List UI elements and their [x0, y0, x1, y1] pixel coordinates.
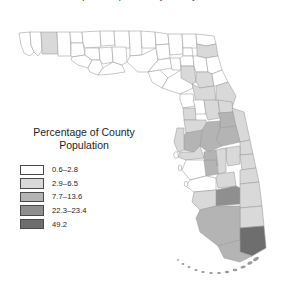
map-legend: Percentage of County Population 0.6–2.8 … — [20, 126, 160, 231]
county-putnam — [196, 72, 214, 88]
county-broward — [240, 206, 264, 228]
county-washington — [71, 43, 85, 57]
county-glades — [216, 172, 236, 188]
county-gadsden — [100, 31, 115, 46]
legend-item-2: 7.7–13.6 — [20, 190, 160, 204]
county-columbia — [168, 34, 183, 55]
legend-item-1: 2.9–6.5 — [20, 177, 160, 191]
county-liberty — [99, 47, 113, 64]
legend-swatch-2 — [20, 192, 44, 203]
legend-item-0: 0.6–2.8 — [20, 163, 160, 177]
county-jackson — [82, 31, 101, 48]
legend-label-0: 0.6–2.8 — [52, 165, 78, 174]
legend-label-1: 2.9–6.5 — [52, 179, 78, 188]
county-martin — [240, 168, 259, 184]
county-miami-dade — [240, 226, 266, 256]
county-duval — [197, 44, 218, 58]
county-okaloosa — [41, 32, 58, 54]
county-clay — [193, 56, 208, 72]
legend-label-2: 7.7–13.6 — [52, 192, 82, 201]
legend-item-4: 49.2 — [20, 217, 160, 231]
legend-swatch-0 — [20, 165, 44, 176]
county-lake — [204, 100, 220, 120]
county-okeechobee — [226, 146, 240, 166]
legend-label-4: 49.2 — [52, 220, 67, 229]
county-baker — [182, 34, 197, 48]
county-palm-beach — [240, 182, 262, 208]
county-collier — [196, 206, 240, 246]
county-seminole — [218, 100, 233, 113]
county-hendry — [216, 186, 240, 206]
county-holmes — [70, 32, 83, 43]
legend-swatch-3 — [20, 205, 44, 216]
county-hernando — [183, 108, 196, 120]
county-walton — [57, 32, 71, 56]
choropleth-figure: Hispanic Population by County, 1990 — [0, 0, 291, 292]
legend-swatch-4 — [20, 219, 44, 230]
county-bradford — [180, 56, 194, 66]
legend-item-3: 22.3–23.4 — [20, 204, 160, 218]
county-desoto — [204, 160, 218, 176]
county-hamilton — [155, 32, 169, 45]
county-citrus — [180, 94, 195, 108]
county-leon — [114, 31, 130, 48]
county-wakulla — [112, 47, 127, 65]
county-indian-river — [240, 140, 253, 155]
county-union — [183, 48, 193, 56]
legend-label-3: 22.3–23.4 — [52, 206, 87, 215]
county-pinellas — [174, 128, 184, 152]
county-gilchrist — [170, 58, 181, 70]
county-st-lucie — [240, 154, 256, 170]
county-suwannee — [156, 44, 170, 60]
legend-title: Percentage of County Population — [20, 126, 148, 151]
county-jefferson — [129, 31, 142, 56]
legend-swatch-1 — [20, 178, 44, 189]
county-madison — [141, 31, 156, 48]
